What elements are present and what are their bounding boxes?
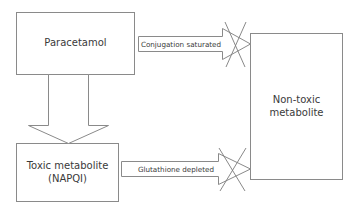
paracetamol-text: Paracetamol: [44, 37, 106, 50]
down-arrow: [29, 75, 109, 144]
conjugation-saturated-label: Conjugation saturated: [139, 37, 223, 51]
toxic-metabolite-line1: Toxic metabolite: [27, 160, 109, 173]
glutathione-depleted-label: Glutathione depleted: [134, 162, 218, 176]
toxic-metabolite-label: Toxic metabolite (NAPQI): [17, 144, 118, 201]
non-toxic-line2: metabolite: [269, 107, 323, 120]
non-toxic-metabolite-label: Non-toxic metabolite: [251, 34, 342, 179]
glutathione-depleted-text: Glutathione depleted: [138, 165, 214, 174]
paracetamol-label: Paracetamol: [17, 13, 134, 74]
conjugation-saturated-text: Conjugation saturated: [141, 40, 221, 49]
toxic-metabolite-line2: (NAPQI): [48, 173, 87, 186]
non-toxic-line1: Non-toxic: [273, 94, 320, 107]
